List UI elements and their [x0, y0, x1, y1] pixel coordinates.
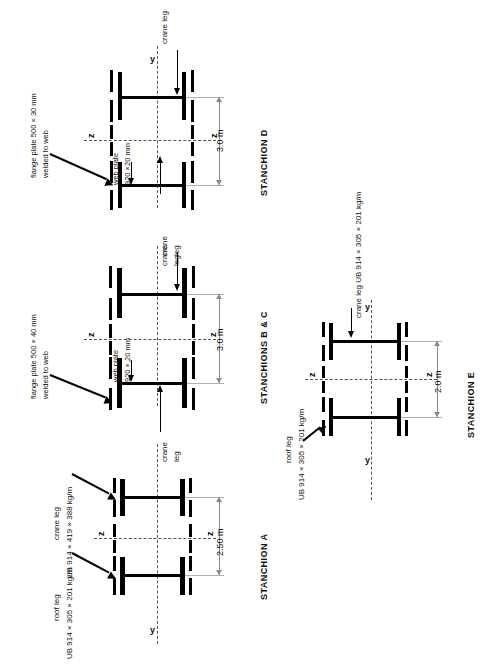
stanchion-d-upper-plate-right2: [191, 100, 194, 122]
stanchion-a-title: STANCHION A: [259, 534, 270, 600]
stanchion-d-dim-arrow-top: [216, 97, 222, 102]
stanchion-e-axis-y-top: y: [365, 302, 370, 313]
stanchion-d-lower-plate-left2: [110, 190, 113, 210]
stanchions-bc-upper-flange-left: [117, 268, 122, 318]
stanchion-d-mid-stub-right-bot: [191, 142, 194, 156]
stanchion-a-upper-flange-right: [180, 479, 185, 516]
stanchions-bc-crane-leg-pointer-upper-head: [174, 284, 180, 291]
stanchions-bc-crane-leg-note-upper-line1: crane: [160, 246, 169, 266]
stanchion-d-axis-z-left: z: [86, 134, 97, 139]
stanchion-e-title: STANCHION E: [466, 372, 477, 438]
stanchion-d-axis-z-right: z: [209, 134, 220, 139]
stanchion-e-lower-web: [332, 416, 400, 419]
stanchion-a-dimension-label: 2.50 m: [215, 528, 226, 556]
stanchion-a-dim-arrow-bottom: [216, 570, 222, 575]
stanchion-e-lower-plate-right-a: [405, 397, 408, 412]
stanchion-d-flange-plate-note-line1: flange plate 500 × 30 mm: [30, 93, 39, 178]
stanchion-e-roof-leg-note-line2: UB 914 × 305 × 201 kg/m: [297, 409, 306, 500]
stanchions-bc-flange-plate-leader: [50, 374, 106, 398]
stanchion-e-mid-stub-left-bot: [322, 381, 325, 393]
stanchion-d-dim-arrow-bottom: [216, 180, 222, 185]
stanchions-bc-lower-plate-right-b: [192, 388, 195, 410]
stanchion-e-ext-bottom: [401, 417, 442, 418]
stanchions-bc-web-plate-pointer-head: [128, 375, 134, 382]
stanchions-bc-upper-plate-left-a: [109, 266, 112, 288]
stanchion-a-roof-leg-note-line2: UB 914 × 305 × 201 kg/m: [65, 568, 74, 659]
stanchions-bc-web-plate-note-line1: web plate: [112, 350, 121, 382]
stanchion-d-title: STANCHION D: [259, 129, 270, 196]
stanchion-e-upper-plate-left-a: [322, 322, 325, 337]
stanchion-e-y-centreline: [371, 300, 372, 500]
stanchion-e-axis-z-right: z: [424, 373, 435, 378]
stanchion-a-upper-web: [124, 496, 184, 499]
stanchion-e-lower-plate-right-b: [405, 420, 408, 436]
stanchion-d-upper-flange-right: [182, 72, 186, 120]
stanchion-d-crane-leg-pointer-lower-head: [157, 156, 163, 163]
stanchion-d-upper-plate-left2: [110, 100, 113, 122]
stanchion-a-lower-web: [124, 574, 184, 577]
stanchion-a-crane-leg-leader: [72, 473, 110, 494]
stanchion-e-upper-plate-left-b: [322, 345, 325, 361]
stanchion-a-roof-leg-note-line1: roof leg: [52, 594, 61, 621]
stanchion-a-z-centreline: [94, 538, 216, 539]
stanchions-bc-lower-plate-right-a: [192, 357, 195, 379]
stanchion-a-dim-arrow-top: [216, 497, 222, 502]
stanchion-a-mid-stub-right-bot: [189, 540, 192, 553]
stanchion-e-mid-stub-right-bot: [405, 381, 408, 393]
stanchion-d-web-plate-pointer-head: [128, 178, 134, 185]
stanchions-bc-upper-flange-right: [182, 268, 187, 318]
stanchion-a-lower-plate-right-b: [189, 578, 192, 595]
stanchion-e-upper-plate-right-a: [405, 322, 408, 337]
stanchion-a-roof-leg-leader: [72, 552, 110, 573]
stanchion-a-roof-leg-leader-head: [107, 571, 118, 582]
stanchion-a-lower-plate-right-a: [189, 556, 192, 571]
stanchions-bc-flange-plate-note-line1: flange plate 500 × 40 mm: [30, 314, 39, 399]
stanchion-a-crane-leg-leader-head: [107, 492, 118, 503]
stanchion-e-mid-stub-left-top: [322, 366, 325, 378]
stanchions-bc-z-centreline: [84, 339, 216, 340]
stanchion-a-upper-plate-right-b: [189, 500, 192, 517]
stanchion-a-mid-stub-left-bot: [113, 540, 116, 553]
stanchions-bc-mid-stub-right-bot: [192, 341, 195, 355]
stanchion-a-y-centreline: [157, 444, 158, 644]
stanchions-bc-axis-z-left: z: [86, 333, 97, 338]
stanchion-a-lower-flange-right: [180, 557, 185, 595]
stanchion-d-crane-leg-pointer-lower: [160, 160, 161, 194]
stanchion-a-lower-flange-left: [120, 557, 125, 595]
stanchion-a-crane-leg-note-line1: crane leg: [52, 507, 61, 540]
stanchion-e-dim-arrow-bottom: [434, 412, 440, 417]
stanchion-d-web-plate-note-line1: web plate: [112, 153, 121, 185]
stanchion-e-upper-plate-right-b: [405, 345, 408, 361]
stanchions-bc-crane-leg-pointer-upper: [177, 252, 178, 286]
stanchion-e-lower-flange-left: [329, 398, 333, 436]
stanchions-bc-flange-plate-leader-head: [104, 396, 114, 406]
stanchions-bc-upper-web: [121, 293, 185, 296]
stanchion-a-ext-bottom: [185, 575, 224, 576]
stanchion-d-upper-plate-left: [110, 70, 113, 92]
stanchions-bc-upper-plate-left-b: [109, 298, 112, 320]
stanchions-bc-upper-plate-right-a: [192, 266, 195, 288]
stanchions-bc-mid-stub-right-top: [192, 324, 195, 338]
stanchions-bc-upper-plate-right-b: [192, 298, 195, 320]
stanchion-a-axis-z-right: z: [205, 532, 216, 537]
diagram-canvas: 3.0 m y z z flange plate 500 × 30 mm wel…: [0, 0, 499, 665]
stanchions-bc-crane-leg-note-lower-line2: leg: [172, 451, 181, 462]
stanchion-a-upper-plate-left-a: [113, 478, 116, 493]
stanchions-bc-lower-web: [121, 382, 185, 385]
stanchion-e-roof-leg-leader-head: [317, 423, 328, 434]
stanchion-d-ext-bottom: [186, 185, 224, 186]
stanchions-bc-crane-leg-pointer-lower: [160, 390, 161, 432]
stanchion-e-upper-flange-left: [329, 323, 333, 360]
stanchion-a-mid-stub-left-top: [113, 524, 116, 537]
stanchion-d-mid-stub-right-top: [191, 125, 194, 139]
stanchion-d-crane-leg-pointer-upper: [177, 50, 178, 90]
stanchion-e-axis-y-bottom: y: [365, 455, 370, 466]
stanchion-a-mid-stub-right-top: [189, 524, 192, 537]
stanchion-d-axis-y: y: [150, 54, 155, 65]
stanchions-bc-ext-bottom: [187, 383, 224, 384]
stanchion-a-crane-leg-note-line2: UB 914 × 419 × 388 kg/m: [65, 487, 74, 578]
stanchion-e-dim-arrow-top: [434, 341, 440, 346]
stanchion-e-z-centreline: [305, 379, 437, 380]
stanchion-d-upper-web: [121, 96, 185, 99]
stanchion-d-flange-plate-leader: [50, 153, 107, 180]
